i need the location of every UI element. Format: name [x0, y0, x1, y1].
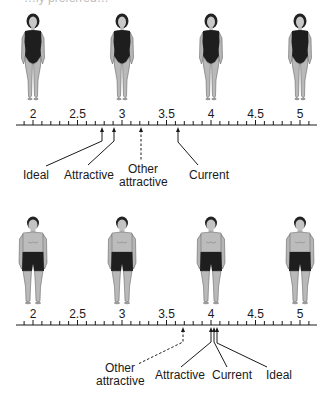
female-attractive-pointer [88, 130, 114, 165]
female-ideal-pointer [46, 130, 102, 166]
male-label-attractive: Attractive [155, 369, 205, 382]
female-tick-2: 2 [30, 108, 37, 120]
male-attractive-pointer [181, 330, 211, 367]
female-tick-3: 3 [119, 108, 126, 120]
female-tick-4-5: 4.5 [247, 108, 264, 120]
male-tick-5: 5 [297, 308, 304, 320]
male-figure-5 [286, 217, 314, 305]
male-figure-2 [19, 217, 47, 305]
male-label-other-attractive: attractive [96, 375, 145, 388]
male-tick-2: 2 [30, 308, 37, 320]
female-label-attractive: Attractive [64, 169, 114, 182]
male-other-attractive-pointer [138, 330, 183, 364]
female-figure-2 [22, 14, 45, 101]
female-tick-3-5: 3.5 [158, 108, 175, 120]
male-tick-4: 4 [208, 308, 215, 320]
female-markers [46, 127, 198, 166]
male-markers [138, 327, 267, 367]
female-label-current: Current [189, 169, 229, 182]
female-tick-2-5: 2.5 [69, 108, 86, 120]
male-figure-4 [197, 217, 225, 305]
female-figure-3 [111, 14, 134, 101]
female-figure-4 [200, 14, 223, 101]
female-current-pointer [178, 130, 198, 165]
male-tick-2-5: 2.5 [69, 308, 86, 320]
female-tick-5: 5 [297, 108, 304, 120]
male-label-ideal: Ideal [266, 369, 292, 382]
diagram-graphics [0, 0, 334, 400]
female-figure-5 [289, 14, 312, 101]
female-tick-4: 4 [208, 108, 215, 120]
male-tick-3-5: 3.5 [158, 308, 175, 320]
male-current-pointer [214, 330, 227, 367]
female-label-other-attractive: attractive [119, 176, 168, 189]
male-tick-3: 3 [119, 308, 126, 320]
male-figure-3 [108, 217, 136, 305]
body-image-diagram: …ly preferred… [0, 0, 334, 400]
female-label-ideal: Ideal [23, 169, 49, 182]
male-tick-4-5: 4.5 [247, 308, 264, 320]
male-label-current: Current [212, 369, 252, 382]
